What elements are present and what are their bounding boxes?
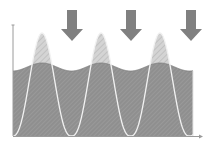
diagram-canvas: [0, 0, 220, 142]
down-arrow-icon: [120, 10, 142, 41]
down-arrow-icon: [180, 10, 202, 41]
wave-diagram: [0, 0, 220, 142]
base-region: [13, 63, 193, 136]
down-arrow-icon: [61, 10, 83, 41]
base-area: [13, 63, 193, 136]
x-axis-arrowhead-icon: [199, 135, 203, 139]
arrows: [61, 10, 202, 41]
